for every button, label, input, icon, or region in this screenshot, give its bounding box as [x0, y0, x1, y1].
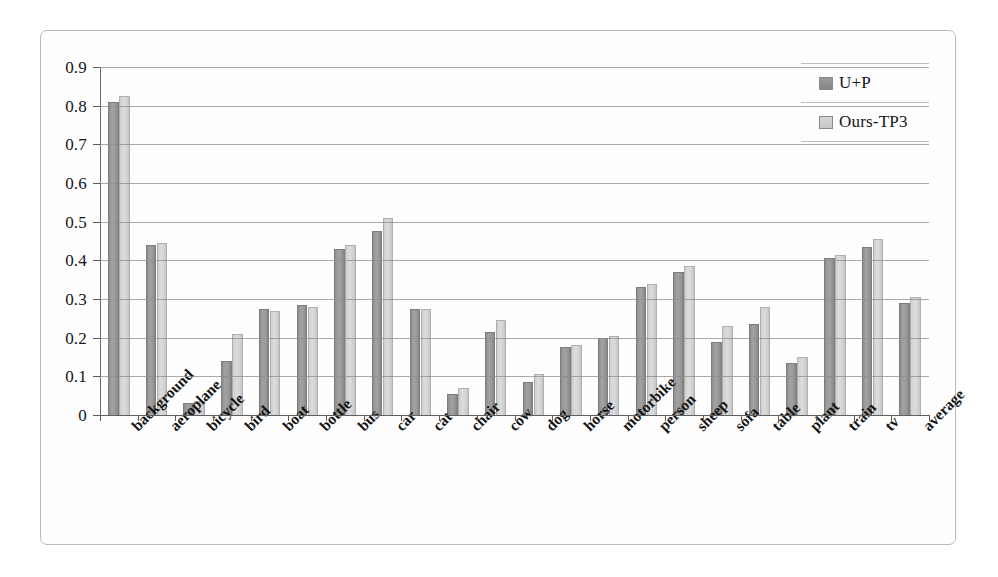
x-tick-mark [854, 415, 855, 421]
x-tick-label-sofa: sofa [731, 422, 744, 435]
x-tick-label-plant: plant [806, 422, 819, 435]
x-tick-mark [891, 415, 892, 421]
x-tick-mark [816, 415, 817, 421]
gridline [100, 67, 929, 68]
y-tick-mark [93, 260, 100, 261]
x-tick-mark [251, 415, 252, 421]
x-tick-mark [138, 415, 139, 421]
x-tick-label-bicycle: bicycle [203, 422, 216, 435]
y-tick-mark [93, 106, 100, 107]
y-tick-mark [93, 376, 100, 377]
x-tick-label-bird: bird [241, 422, 254, 435]
x-tick-mark [552, 415, 553, 421]
legend-swatch-icon [819, 116, 833, 129]
x-tick-label-chair: chair [467, 422, 480, 435]
x-tick-mark [778, 415, 779, 421]
x-tick-label-person: person [655, 422, 668, 435]
x-tick-mark [703, 415, 704, 421]
x-tick-label-motorbike: motorbike [618, 422, 631, 435]
gridline [100, 299, 929, 300]
x-tick-label-horse: horse [580, 422, 593, 435]
x-tick-label-table: table [768, 422, 781, 435]
legend-entry-1: Ours-TP3 [801, 103, 929, 142]
x-tick-label-cow: cow [505, 422, 518, 435]
x-tick-mark [741, 415, 742, 421]
gridline [100, 338, 929, 339]
gridline [100, 144, 929, 145]
x-tick-mark [288, 415, 289, 421]
gridline [100, 260, 929, 261]
x-tick-label-sheep: sheep [693, 422, 706, 435]
x-tick-label-cat: cat [429, 422, 442, 435]
y-tick-mark [93, 338, 100, 339]
x-tick-mark [175, 415, 176, 421]
plot-area: 00.10.20.30.40.50.60.70.80.9 backgrounda… [41, 31, 955, 544]
x-tick-mark [477, 415, 478, 421]
legend-swatch-icon [819, 77, 833, 90]
chart-legend: U+POurs-TP3 [801, 63, 929, 142]
x-tick-label-tv: tv [881, 422, 894, 435]
legend-label: Ours-TP3 [839, 112, 908, 132]
x-tick-mark [665, 415, 666, 421]
x-tick-label-train: train [844, 422, 857, 435]
gridline [100, 106, 929, 107]
gridline [100, 376, 929, 377]
x-tick-mark [590, 415, 591, 421]
x-tick-mark [364, 415, 365, 421]
x-tick-label-background: background [128, 422, 141, 435]
y-tick-mark [93, 299, 100, 300]
x-tick-label-dog: dog [542, 422, 555, 435]
x-tick-label-aeroplane: aeroplane [166, 422, 179, 435]
x-tick-label-car: car [392, 422, 405, 435]
x-tick-label-boat: boat [279, 422, 292, 435]
x-tick-mark [515, 415, 516, 421]
x-tick-mark [213, 415, 214, 421]
x-tick-mark [929, 415, 930, 421]
y-tick-mark [93, 183, 100, 184]
x-tick-mark [628, 415, 629, 421]
x-tick-mark [100, 415, 101, 421]
legend-label: U+P [839, 73, 871, 93]
x-tick-mark [326, 415, 327, 421]
y-tick-mark [93, 222, 100, 223]
gridline [100, 222, 929, 223]
y-tick-mark [93, 144, 100, 145]
y-axis-line [100, 67, 101, 416]
x-tick-label-bus: bus [354, 422, 367, 435]
x-tick-label-average: average [919, 422, 932, 435]
x-tick-mark [439, 415, 440, 421]
legend-entry-0: U+P [801, 63, 929, 103]
x-tick-mark [401, 415, 402, 421]
chart-frame: 00.10.20.30.40.50.60.70.80.9 backgrounda… [40, 30, 956, 545]
x-tick-label-bottle: bottle [316, 422, 329, 435]
gridline [100, 183, 929, 184]
y-tick-mark [93, 415, 100, 416]
y-tick-mark [93, 67, 100, 68]
